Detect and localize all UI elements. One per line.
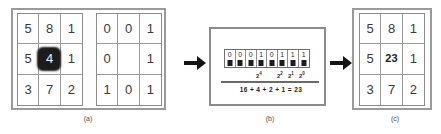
bit-cell: 0: [236, 50, 247, 67]
bit-value: 0: [246, 50, 256, 59]
grid-cell: 0: [97, 44, 118, 74]
grid-cell: 5: [360, 44, 381, 74]
grid-cell-center-highlighted: 4: [39, 44, 60, 74]
bit-cell: 1: [288, 50, 299, 67]
grid-cell: 5: [18, 14, 39, 44]
bit-value: 1: [278, 50, 288, 59]
panel-a-container: 5 8 1 5 4 1 3 7 2 0 0 1 0 1 1 0: [11, 8, 166, 110]
grid-cell: 2: [61, 75, 82, 105]
exponent-label: 21: [288, 70, 294, 80]
bit-marker: [301, 60, 306, 66]
caption-c: (c): [380, 114, 410, 123]
grid-cell-center-result: 23: [381, 44, 402, 74]
thresholded-neighborhood-grid: 0 0 1 0 1 1 0 1: [96, 13, 162, 106]
grid-cell-center-empty: [118, 44, 139, 74]
bit-value: 1: [299, 50, 310, 59]
grid-cell: 5: [360, 14, 381, 44]
grid-cell: 8: [381, 14, 402, 44]
bit-marker: [248, 60, 253, 66]
grid-cell: 1: [140, 14, 161, 44]
panel-b-container: 0 0 0 1 0 1 1: [209, 27, 326, 106]
bit-marker: [290, 60, 295, 66]
caption-a: (a): [73, 114, 103, 123]
bit-marker: [259, 60, 264, 66]
grid-cell: 1: [403, 44, 424, 74]
grid-cell: 1: [403, 14, 424, 44]
bit-cell: 1: [257, 50, 268, 67]
exponent-label: 20: [299, 70, 305, 80]
arrow-shaft: [330, 61, 344, 65]
lbp-result-grid: 5 8 1 5 23 1 3 7 2: [359, 13, 425, 106]
bit-value: 1: [288, 50, 298, 59]
grid-cell: 7: [39, 75, 60, 105]
grid-cell: 8: [39, 14, 60, 44]
bit-sequence-strip: 0 0 0 1 0 1 1: [224, 49, 310, 68]
grid-cell: 2: [403, 75, 424, 105]
grid-cell: 7: [381, 75, 402, 105]
bit-marker: [238, 60, 243, 66]
bit-value: 0: [236, 50, 246, 59]
bit-value: 0: [267, 50, 277, 59]
sum-divider-rule: [221, 81, 319, 83]
arrow-right-icon: [330, 56, 352, 70]
grid-cell: 3: [18, 75, 39, 105]
grid-cell: 5: [18, 44, 39, 74]
bit-cell: 0: [246, 50, 257, 67]
bit-cell: 0: [267, 50, 278, 67]
grid-cell: 1: [140, 75, 161, 105]
arrow-right-icon: [184, 56, 206, 70]
exponent-label-row: 24 22 21 20: [224, 70, 310, 80]
bit-marker: [280, 60, 285, 66]
arrow-shaft: [184, 61, 198, 65]
bit-cell: 1: [278, 50, 289, 67]
caption-b: (b): [255, 114, 285, 123]
grid-cell: 1: [140, 44, 161, 74]
bit-cell: 1: [299, 50, 310, 67]
arrow-head: [343, 56, 352, 70]
grid-cell: 0: [118, 75, 139, 105]
grid-cell: 1: [61, 44, 82, 74]
grid-cell: 3: [360, 75, 381, 105]
grid-cell: 1: [97, 75, 118, 105]
bit-marker: [269, 60, 274, 66]
bit-value: 0: [225, 50, 235, 59]
grid-cell-center-value: 4: [46, 52, 53, 65]
bit-marker: [227, 60, 232, 66]
exponent-label: 24: [256, 70, 262, 80]
grid-cell: 0: [118, 14, 139, 44]
bit-value: 1: [257, 50, 267, 59]
grid-cell: 1: [61, 14, 82, 44]
original-neighborhood-grid: 5 8 1 5 4 1 3 7 2: [17, 13, 83, 106]
figure-canvas: 5 8 1 5 4 1 3 7 2 0 0 1 0 1 1 0: [0, 0, 441, 134]
exponent-label: 22: [277, 70, 283, 80]
sum-expression: 16 + 4 + 2 + 1 = 23: [221, 86, 321, 93]
panel-c-container: 5 8 1 5 23 1 3 7 2: [352, 8, 432, 110]
bit-cell: 0: [225, 50, 236, 67]
grid-cell: 0: [97, 14, 118, 44]
arrow-head: [197, 56, 206, 70]
